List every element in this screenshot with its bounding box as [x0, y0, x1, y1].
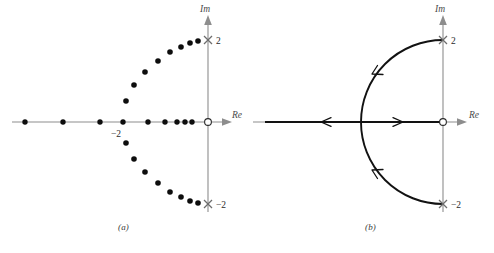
panel-a-upper-branch-roots — [123, 38, 201, 104]
panel-b-imaginary-axis — [439, 15, 447, 212]
panel-a-lower-branch-roots — [123, 140, 201, 206]
panel-b-tick-label-negative-two: −2 — [451, 200, 461, 210]
panel-a-computed-roots: Re Im 2 −2 −2 (a) — [0, 0, 247, 253]
panel-b-imaginary-axis-label: Im — [434, 4, 445, 14]
panel-b-tick-label-positive-two: 2 — [451, 36, 456, 46]
panel-b-caption: (b) — [247, 222, 494, 232]
panel-a-imaginary-axis-label: Im — [199, 4, 210, 14]
panel-a-tick-label-positive-two: 2 — [216, 36, 221, 46]
panel-a-zero-at-origin — [205, 119, 212, 126]
panel-b-zero-at-origin — [440, 119, 447, 126]
panel-a-imaginary-axis — [204, 15, 212, 212]
panel-a-caption: (a) — [0, 222, 247, 232]
root-locus-figure: Re Im 2 −2 −2 (a) — [0, 0, 494, 253]
panel-b-real-axis-label: Re — [468, 110, 479, 120]
panel-a-real-axis-label: Re — [231, 110, 242, 120]
panel-a-tick-label-negative-two-real: −2 — [111, 129, 121, 139]
panel-a-tick-label-negative-two-imag: −2 — [216, 200, 226, 210]
panel-b-idealized-locus: Re Im 2 −2 (b) — [247, 0, 494, 253]
